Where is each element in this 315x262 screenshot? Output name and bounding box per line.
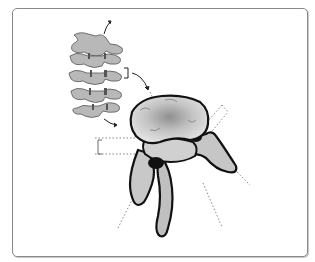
bracket-vertebra [124,68,128,78]
arrow-up [104,22,110,34]
vertebra-detail [95,92,250,236]
bracket-left [98,140,102,154]
spinous-process [156,158,172,236]
spine-illustration [0,0,315,262]
vertebra-1 [72,33,123,56]
vertebral-body [131,96,209,144]
vertebra-3 [69,70,122,84]
vertebra-4 [71,88,122,102]
foramen-shadow [148,157,164,169]
arrow-to-detail [132,73,148,89]
spine-column [69,33,123,118]
vertebra-5 [73,103,120,118]
